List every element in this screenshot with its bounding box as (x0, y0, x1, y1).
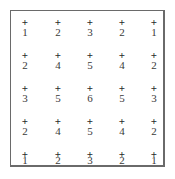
grid-value: 1 (144, 27, 164, 38)
grid-value: 4 (112, 126, 132, 137)
grid-value: 2 (112, 27, 132, 38)
grid-value: 2 (112, 155, 132, 166)
grid-value: 2 (15, 60, 35, 71)
grid-value: 3 (80, 27, 100, 38)
grid-value: 2 (144, 60, 164, 71)
grid-value: 2 (48, 155, 68, 166)
grid-value: 2 (15, 126, 35, 137)
grid-value: 3 (15, 93, 35, 104)
grid-value: 1 (15, 27, 35, 38)
grid-value: 6 (80, 93, 100, 104)
grid-value: 5 (80, 126, 100, 137)
grid-value: 3 (144, 93, 164, 104)
grid-value: 3 (80, 155, 100, 166)
grid-value: 1 (15, 155, 35, 166)
grid-value: 2 (48, 27, 68, 38)
grid-value: 4 (48, 60, 68, 71)
grid-value: 2 (144, 126, 164, 137)
grid-value: 4 (112, 60, 132, 71)
grid-value: 1 (144, 155, 164, 166)
grid-value: 4 (48, 126, 68, 137)
grid-value: 5 (80, 60, 100, 71)
grid-value: 5 (112, 93, 132, 104)
grid-value: 5 (48, 93, 68, 104)
